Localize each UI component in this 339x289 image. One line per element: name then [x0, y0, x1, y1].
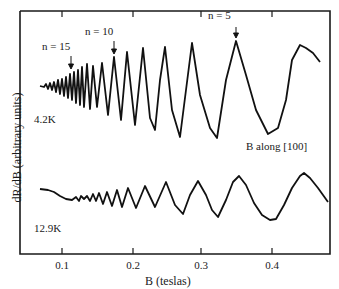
series-label-12.9K: 12.9K: [34, 222, 61, 234]
x-tick-0.4: 0.4: [265, 259, 279, 271]
orientation-label: B along [100]: [246, 140, 307, 152]
x-tick-0.1: 0.1: [55, 259, 69, 271]
arrow-n10: [112, 41, 117, 54]
annotation-n10: n = 10: [85, 25, 113, 37]
curve-4.2K: [40, 41, 320, 138]
top-ticks: [62, 11, 272, 17]
annotation-n5: n = 5: [208, 9, 231, 21]
arrow-n5: [234, 27, 239, 38]
curve-12.9K: [40, 173, 328, 220]
bottom-ticks: [62, 248, 272, 254]
y-axis-label: dR/dB (arbitrary units): [10, 93, 25, 203]
x-axis-label: B (teslas): [145, 274, 191, 289]
series-label-4.2K: 4.2K: [34, 113, 56, 125]
x-tick-0.3: 0.3: [194, 259, 208, 271]
arrow-n15: [69, 56, 74, 69]
annotation-n15: n = 15: [42, 40, 70, 52]
x-tick-0.2: 0.2: [126, 259, 140, 271]
